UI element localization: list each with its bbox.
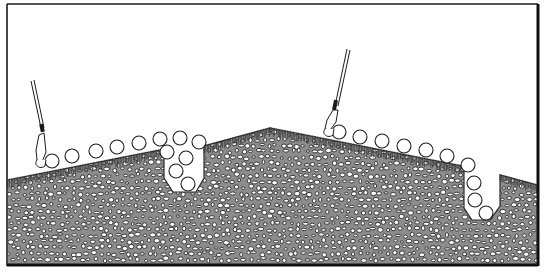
soil-pebble [161, 240, 166, 244]
soil-pebble [141, 205, 145, 207]
soil-pebble [213, 127, 218, 130]
soil-pebble [419, 253, 425, 257]
soil-pebble [221, 174, 225, 177]
soil-pebble [410, 124, 413, 128]
soil-pebble [289, 234, 293, 238]
soil-pebble [366, 181, 369, 183]
soil-pebble [467, 221, 471, 225]
soil-pebble [164, 127, 167, 130]
soil-pebble [528, 258, 531, 261]
soil-pebble [386, 239, 390, 243]
soil-pebble [449, 240, 455, 244]
soil-pebble [59, 198, 62, 202]
soil-pebble [126, 143, 130, 145]
seed-circle [132, 136, 146, 150]
soil-pebble [436, 169, 440, 172]
soil-pebble [191, 125, 196, 129]
soil-pebble [322, 253, 327, 257]
soil-pebble [200, 233, 205, 237]
soil-pebble [296, 227, 300, 231]
soil-pebble [446, 174, 449, 178]
soil-pebble [200, 127, 204, 131]
soil-pebble [406, 132, 410, 135]
soil-pebble [72, 246, 77, 249]
seed-circle [160, 145, 174, 159]
soil-pebble [529, 151, 534, 154]
soil-pebble [67, 246, 71, 248]
soil-pebble [104, 216, 109, 220]
soil-pebble [76, 203, 81, 207]
soil-pebble [316, 131, 322, 135]
soil-pebble [280, 239, 283, 243]
soil-pebble [509, 210, 512, 214]
soil-pebble [281, 181, 287, 184]
soil-pebble [104, 131, 108, 134]
soil-pebble [352, 192, 357, 196]
soil-pebble [482, 241, 486, 243]
soil-pebble [234, 223, 239, 226]
soil-pebble [441, 190, 446, 195]
soil-pebble [196, 241, 201, 245]
soil-pebble [105, 192, 108, 195]
soil-pebble [26, 205, 32, 209]
soil-pebble [109, 209, 112, 213]
soil-pebble [84, 241, 88, 244]
soil-pebble [83, 252, 89, 255]
soil-pebble [436, 210, 441, 212]
soil-pebble [366, 163, 371, 166]
soil-pebble [408, 245, 414, 248]
soil-pebble [183, 217, 187, 220]
soil-pebble [151, 259, 157, 262]
soil-pebble [328, 181, 331, 185]
soil-pebble [448, 215, 451, 220]
soil-pebble [234, 185, 238, 189]
soil-pebble [31, 137, 34, 140]
soil-pebble [486, 184, 490, 188]
soil-pebble [41, 203, 46, 207]
soil-pebble [214, 233, 219, 237]
soil-pebble [184, 204, 187, 208]
soil-pebble [504, 155, 509, 159]
soil-pebble [494, 233, 499, 237]
soil-pebble [393, 205, 398, 209]
soil-pebble [519, 143, 525, 146]
soil-pebble [504, 192, 509, 195]
soil-pebble [381, 185, 387, 189]
soil-pebble [250, 257, 253, 261]
soil-pebble [178, 257, 183, 260]
soil-pebble [480, 150, 485, 152]
soil-pebble [312, 174, 316, 177]
soil-pebble [415, 221, 420, 224]
soil-pebble [62, 252, 66, 256]
soil-pebble [260, 168, 263, 172]
soil-pebble [262, 160, 265, 164]
soil-pebble [184, 211, 189, 214]
soil-pebble [371, 132, 376, 136]
soil-pebble [57, 142, 62, 146]
soil-pebble [387, 235, 392, 238]
soil-pebble [72, 234, 78, 237]
soil-pebble [32, 257, 36, 261]
soil-pebble [317, 175, 322, 179]
soil-pebble [91, 251, 97, 255]
soil-pebble [40, 223, 43, 226]
soil-pebble [180, 222, 183, 226]
soil-pebble [87, 127, 91, 130]
soil-pebble [458, 210, 463, 212]
soil-pebble [291, 210, 295, 213]
soil-pebble [472, 245, 477, 248]
soil-pebble [65, 210, 71, 213]
soil-pebble [234, 246, 239, 249]
soil-pebble [267, 214, 273, 218]
soil-pebble [294, 157, 298, 161]
soil-pebble [471, 151, 476, 154]
soil-pebble [242, 150, 246, 154]
soil-pebble [182, 226, 185, 230]
soil-pebble [318, 209, 321, 213]
soil-pebble [383, 234, 386, 237]
soil-pebble [88, 210, 91, 214]
soil-pebble [517, 167, 522, 170]
soil-pebble [135, 180, 138, 183]
soil-pebble [29, 168, 34, 172]
soil-pebble [481, 259, 485, 263]
